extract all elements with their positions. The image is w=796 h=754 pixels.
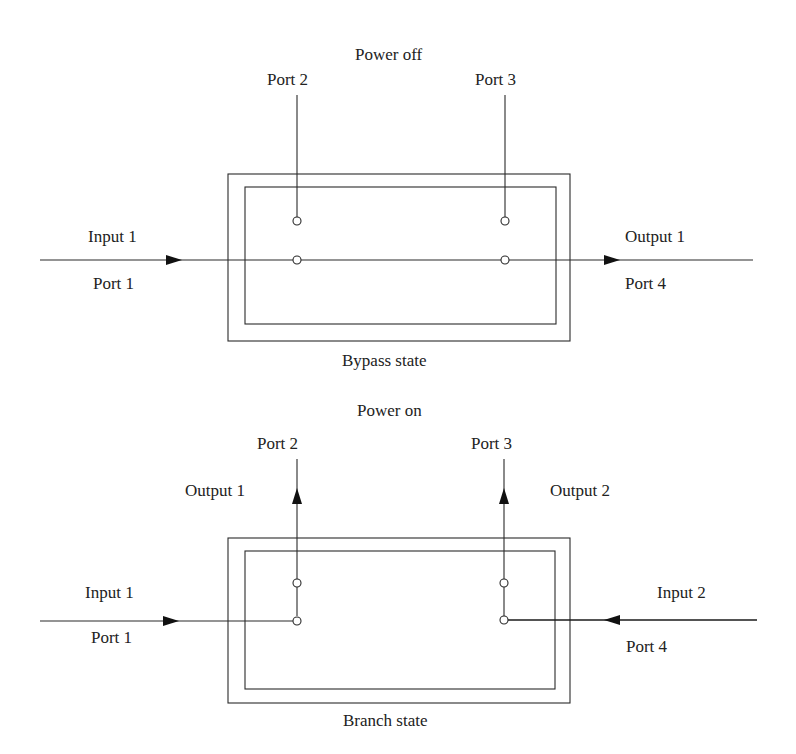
bypass-inner-box bbox=[245, 187, 556, 324]
bypass-output1-label: Output 1 bbox=[625, 228, 685, 245]
bypass-state-label: Bypass state bbox=[342, 352, 427, 369]
branch-power-label: Power on bbox=[357, 402, 422, 419]
branch-port1-label: Port 1 bbox=[91, 629, 132, 646]
bypass-power-label: Power off bbox=[355, 46, 422, 63]
branch-port4-label: Port 4 bbox=[626, 638, 667, 655]
bypass-port1-label: Port 1 bbox=[93, 275, 134, 292]
bypass-output-arrow-icon bbox=[604, 255, 620, 265]
branch-port1-node bbox=[293, 617, 301, 625]
bypass-input-arrow-icon bbox=[166, 255, 182, 265]
branch-input1-arrow-icon bbox=[163, 616, 179, 626]
branch-output1-arrow-icon bbox=[292, 488, 302, 504]
branch-state-label: Branch state bbox=[343, 712, 428, 729]
branch-port2-upper-node bbox=[293, 579, 301, 587]
bypass-port1-node bbox=[293, 256, 301, 264]
bypass-diagram bbox=[40, 95, 753, 341]
branch-port4-node bbox=[500, 616, 508, 624]
branch-output1-label: Output 1 bbox=[185, 482, 245, 499]
bypass-port2-label: Port 2 bbox=[267, 71, 308, 88]
branch-port3-label: Port 3 bbox=[471, 435, 512, 452]
branch-port2-label: Port 2 bbox=[257, 435, 298, 452]
branch-output2-label: Output 2 bbox=[550, 482, 610, 499]
bypass-port4-label: Port 4 bbox=[625, 275, 666, 292]
branch-port3-upper-node bbox=[500, 579, 508, 587]
branch-diagram bbox=[40, 459, 757, 703]
branch-input2-label: Input 2 bbox=[657, 584, 706, 601]
bypass-input1-label: Input 1 bbox=[88, 228, 137, 245]
bypass-port3-node bbox=[501, 217, 509, 225]
branch-input1-label: Input 1 bbox=[85, 584, 134, 601]
bypass-port2-node bbox=[293, 217, 301, 225]
bypass-port4-node bbox=[501, 256, 509, 264]
bypass-port3-label: Port 3 bbox=[475, 71, 516, 88]
branch-output2-arrow-icon bbox=[499, 488, 509, 504]
bypass-outer-box bbox=[228, 174, 570, 341]
branch-input2-arrow-icon bbox=[604, 615, 620, 625]
